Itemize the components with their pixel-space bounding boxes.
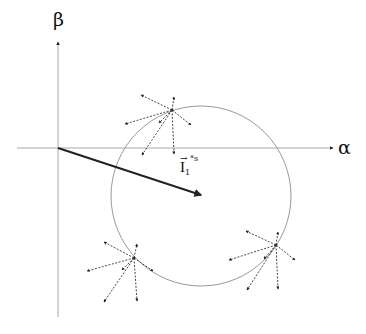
dashed-arrow [125,110,172,124]
dashed-arrow [172,110,191,125]
dashed-arrow [141,95,172,110]
dashed-arrow [87,258,134,271]
dashed-arrow [246,231,276,245]
dashed-arrow [264,245,276,259]
dashed-arrow [247,245,276,290]
dashed-arrow [229,245,276,260]
beta-axis-label: β [53,8,64,30]
vector-star-2 [87,242,153,302]
vector-arrow-glyph: → [180,154,188,163]
vector-subscript: 1 [185,168,190,177]
vector-star-1 [125,95,191,155]
alpha-axis-label: α [338,136,351,158]
dashed-arrow [134,258,137,301]
star-center-dot [133,257,136,260]
dashed-arrow [172,110,174,154]
switching-vector-stars [87,95,295,302]
vector-superscript: *s [190,155,198,163]
star-center-dot [275,244,278,247]
dashed-arrow [134,258,153,271]
dashed-arrow [122,258,134,270]
star-center-dot [171,109,174,112]
vector-star-3 [229,231,295,290]
vector-label: → I1 *s [180,160,190,175]
axes [17,42,333,317]
dashed-arrow [276,245,278,289]
dashed-arrow [276,245,295,260]
dashed-arrow [172,97,174,110]
